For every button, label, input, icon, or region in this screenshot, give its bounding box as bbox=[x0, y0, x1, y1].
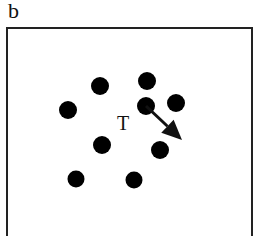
dot-6 bbox=[93, 136, 111, 154]
arrow-label: T bbox=[117, 112, 129, 134]
frame-box bbox=[7, 28, 252, 236]
dot-1 bbox=[91, 77, 109, 95]
dot-2 bbox=[59, 101, 77, 119]
dot-7 bbox=[151, 141, 169, 159]
arrow-shaft bbox=[146, 106, 167, 126]
dot-8 bbox=[68, 171, 85, 188]
diagram-canvas: T bbox=[0, 0, 259, 236]
dot-5 bbox=[167, 94, 185, 112]
dot-9 bbox=[126, 172, 143, 189]
dot-3 bbox=[138, 72, 156, 90]
